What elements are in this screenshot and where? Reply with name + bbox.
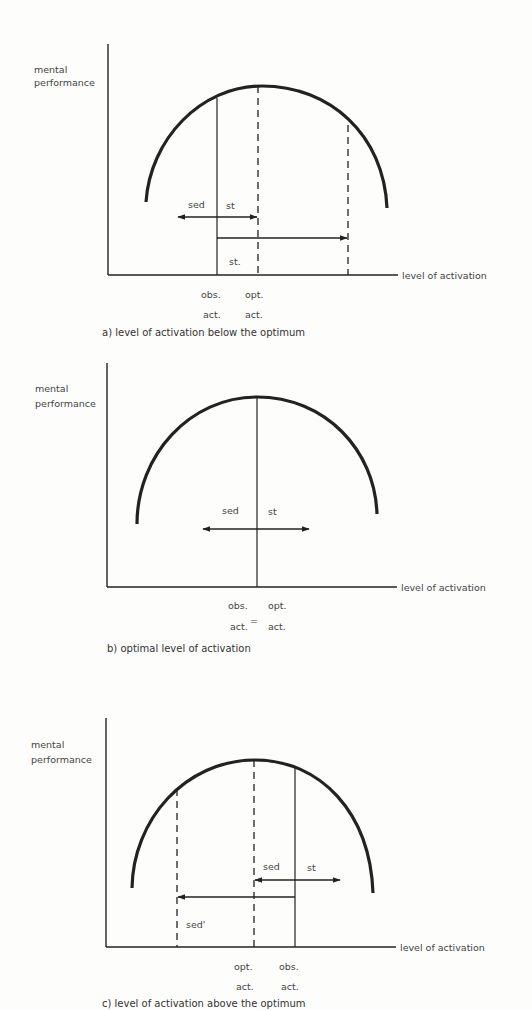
tick-obs-top: obs. [228, 600, 248, 611]
performance-curve [146, 86, 387, 208]
panel-b: mental performance level of activation s… [35, 363, 486, 654]
sed-label: sed [263, 861, 280, 872]
tick-obs-bottom: act. [203, 309, 221, 320]
st-label: st [268, 506, 277, 517]
tick-opt-bottom: act. [236, 981, 254, 992]
tick-opt-top: opt. [234, 961, 253, 972]
performance-curve [132, 760, 373, 893]
tick-obs-top: obs. [279, 961, 299, 972]
st-label: st [307, 862, 316, 873]
caption: a) level of activation below the optimum [102, 327, 305, 338]
st-label-2: st. [229, 256, 241, 267]
tick-opt-top: opt. [268, 600, 287, 611]
equals-sign: = [250, 615, 258, 626]
tick-obs-top: obs. [201, 289, 221, 300]
x-axis-label: level of activation [400, 942, 485, 953]
sed-label: sed [188, 199, 205, 210]
tick-opt-top: opt. [245, 289, 264, 300]
panel-a: mental performance level of activation s… [34, 44, 487, 338]
sed-prime-label: sed' [186, 919, 205, 930]
st-label: st [226, 200, 235, 211]
y-axis-label-line1: mental [31, 739, 64, 750]
sed-label: sed [222, 505, 239, 516]
tick-opt-bottom: act. [268, 621, 286, 632]
panel-c: mental performance level of activation s… [31, 718, 485, 1009]
y-axis-label-line1: mental [35, 383, 68, 394]
caption: c) level of activation above the optimum [102, 998, 305, 1009]
x-axis-label: level of activation [401, 582, 486, 593]
tick-obs-bottom: act. [281, 981, 299, 992]
tick-obs-bottom: act. [230, 621, 248, 632]
x-axis-label: level of activation [402, 270, 487, 281]
caption: b) optimal level of activation [107, 643, 251, 654]
activation-diagram: mental performance level of activation s… [0, 0, 532, 1010]
y-axis-label-line2: performance [31, 754, 92, 765]
y-axis-label-line2: performance [34, 77, 95, 88]
y-axis-label-line2: performance [35, 398, 96, 409]
tick-opt-bottom: act. [245, 309, 263, 320]
y-axis-label-line1: mental [34, 64, 67, 75]
